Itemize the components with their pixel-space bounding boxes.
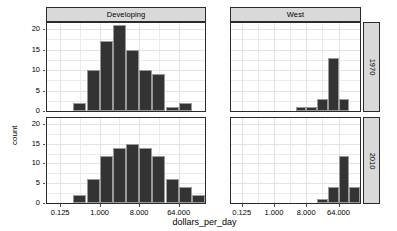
y-axis-tick-label: 20 <box>16 24 40 33</box>
facet-strip-row-1970: 1970 <box>363 22 380 112</box>
gridline-horizontal-minor <box>231 39 360 40</box>
gridline-horizontal <box>47 111 205 112</box>
histogram-bar <box>152 74 165 111</box>
histogram-bar <box>328 187 339 203</box>
histogram-bar <box>139 148 152 203</box>
y-axis-tick-mark <box>43 124 46 125</box>
facet-strip-label: 1970 <box>367 59 376 76</box>
y-axis-tick-mark <box>43 29 46 30</box>
histogram-bar <box>113 25 126 111</box>
gridline-horizontal <box>231 124 360 125</box>
y-axis-tick-label: 0 <box>16 106 40 115</box>
gridline-horizontal-minor <box>47 39 205 40</box>
gridline-horizontal-minor <box>231 154 360 155</box>
faceted-histogram-chart: DevelopingWest1970201005101520051015200.… <box>0 0 397 231</box>
histogram-bar <box>317 199 328 203</box>
y-axis-tick-mark <box>43 144 46 145</box>
histogram-bar <box>296 107 307 111</box>
y-axis-tick-mark <box>43 50 46 51</box>
histogram-bar <box>73 103 86 111</box>
panel-developing-2010 <box>46 117 206 204</box>
gridline-vertical <box>274 118 275 203</box>
x-axis-tick-label: 64.000 <box>159 208 199 217</box>
gridline-vertical <box>60 118 61 203</box>
panel-west-2010 <box>230 117 361 204</box>
facet-strip-col-developing: Developing <box>46 7 206 22</box>
gridline-horizontal-minor <box>231 60 360 61</box>
y-axis-tick-mark <box>43 111 46 112</box>
y-axis-tick-mark <box>43 91 46 92</box>
gridline-horizontal <box>47 203 205 204</box>
y-axis-tick-label: 5 <box>16 178 40 187</box>
y-axis-title: count <box>10 125 19 145</box>
x-axis-tick-mark <box>60 204 61 207</box>
y-axis-tick-label: 10 <box>16 158 40 167</box>
gridline-horizontal-minor <box>231 80 360 81</box>
x-axis-tick-label: 0.125 <box>40 208 80 217</box>
histogram-bar <box>166 179 179 203</box>
histogram-bar <box>152 156 165 203</box>
x-axis-tick-label: 64.000 <box>319 208 359 217</box>
y-axis-tick-label: 20 <box>16 119 40 128</box>
gridline-horizontal <box>231 91 360 92</box>
histogram-bar <box>100 156 113 203</box>
gridline-horizontal <box>231 29 360 30</box>
y-axis-tick-mark <box>43 163 46 164</box>
gridline-horizontal <box>231 111 360 112</box>
y-axis-tick-label: 10 <box>16 65 40 74</box>
y-axis-tick-mark <box>43 70 46 71</box>
panel-west-1970 <box>230 22 361 112</box>
histogram-bar <box>349 187 360 203</box>
histogram-bar <box>306 107 317 111</box>
x-axis-tick-label: 1.000 <box>80 208 120 217</box>
x-axis-tick-mark <box>100 204 101 207</box>
panel-developing-1970 <box>46 22 206 112</box>
gridline-horizontal-minor <box>47 134 205 135</box>
facet-strip-label: Developing <box>107 10 146 19</box>
histogram-bar <box>339 99 350 111</box>
gridline-vertical <box>274 23 275 111</box>
gridline-vertical-minor <box>80 23 81 111</box>
facet-strip-row-2010: 2010 <box>363 117 380 204</box>
gridline-vertical <box>179 23 180 111</box>
gridline-vertical-minor <box>322 118 323 203</box>
x-axis-tick-mark <box>242 204 243 207</box>
gridline-vertical-minor <box>290 118 291 203</box>
y-axis-tick-mark <box>43 203 46 204</box>
histogram-bar <box>179 187 192 203</box>
y-axis-tick-label: 15 <box>16 139 40 148</box>
gridline-horizontal <box>231 144 360 145</box>
histogram-bar <box>126 144 139 203</box>
gridline-vertical-minor <box>290 23 291 111</box>
facet-strip-label: West <box>287 10 304 19</box>
gridline-vertical <box>306 118 307 203</box>
histogram-bar <box>166 107 179 111</box>
x-axis-tick-label: 8.000 <box>119 208 159 217</box>
gridline-vertical <box>242 118 243 203</box>
histogram-bar <box>113 148 126 203</box>
histogram-bar <box>317 99 328 111</box>
histogram-bar <box>339 156 350 203</box>
x-axis-tick-mark <box>306 204 307 207</box>
x-axis-title: dollars_per_day <box>46 217 363 227</box>
gridline-vertical <box>60 23 61 111</box>
histogram-bar <box>87 179 100 203</box>
x-axis-tick-mark <box>179 204 180 207</box>
facet-strip-label: 2010 <box>367 152 376 169</box>
x-axis-tick-mark <box>139 204 140 207</box>
gridline-vertical-minor <box>258 23 259 111</box>
facet-strip-col-west: West <box>230 7 361 22</box>
gridline-horizontal <box>231 50 360 51</box>
gridline-vertical <box>306 23 307 111</box>
x-axis-tick-mark <box>339 204 340 207</box>
gridline-horizontal <box>231 70 360 71</box>
histogram-bar <box>87 70 100 111</box>
x-axis-tick-mark <box>274 204 275 207</box>
gridline-vertical-minor <box>258 118 259 203</box>
histogram-bar <box>126 50 139 111</box>
histogram-bar <box>192 195 205 203</box>
histogram-bar <box>100 41 113 111</box>
gridline-horizontal <box>231 203 360 204</box>
gridline-vertical <box>242 23 243 111</box>
histogram-bar <box>179 103 192 111</box>
